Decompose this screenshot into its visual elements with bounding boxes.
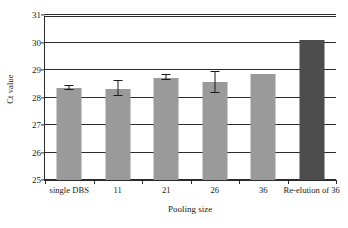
error-bar bbox=[117, 81, 118, 96]
x-tick-label: single DBS bbox=[50, 185, 89, 196]
bar-group: 26 bbox=[191, 17, 240, 180]
error-bar-cap-bottom bbox=[113, 95, 122, 96]
error-bar bbox=[214, 72, 215, 92]
x-tick-mark bbox=[239, 180, 240, 184]
x-tick-mark bbox=[142, 180, 143, 184]
x-tick-label: 26 bbox=[210, 185, 219, 196]
bar[interactable] bbox=[251, 74, 276, 180]
bar[interactable] bbox=[154, 78, 179, 180]
x-tick-mark bbox=[94, 180, 95, 184]
bar[interactable] bbox=[202, 82, 227, 180]
plot-area: 31302928272625 single DBS11212636Re-elut… bbox=[44, 16, 336, 181]
bar[interactable] bbox=[57, 88, 82, 180]
y-tick-mark-31 bbox=[41, 14, 45, 15]
error-bar-cap-top bbox=[65, 85, 74, 86]
x-tick-label: 21 bbox=[162, 185, 171, 196]
x-axis-title: Pooling size bbox=[44, 204, 336, 214]
y-tick-label-27: 27 bbox=[32, 120, 41, 130]
gridline-31: 31 bbox=[45, 14, 336, 15]
y-tick-label-29: 29 bbox=[32, 65, 41, 75]
x-tick-label: 11 bbox=[114, 185, 122, 196]
bar[interactable] bbox=[105, 89, 130, 180]
x-tick-label: Re-elution of 36 bbox=[279, 185, 345, 196]
y-axis-title: Ct value bbox=[5, 57, 15, 121]
error-bar-cap-top bbox=[210, 71, 219, 72]
error-bar-cap-bottom bbox=[210, 92, 219, 93]
y-tick-label-31: 31 bbox=[32, 10, 41, 20]
error-bar-cap-bottom bbox=[162, 79, 171, 80]
bar-chart-figure: Ct value 31302928272625 single DBS112126… bbox=[0, 0, 348, 228]
x-tick-mark bbox=[45, 180, 46, 184]
error-bar-cap-top bbox=[113, 80, 122, 81]
bar-group: 21 bbox=[142, 17, 191, 180]
x-tick-label: 36 bbox=[259, 185, 268, 196]
bar-group: 36 bbox=[239, 17, 288, 180]
error-bar-cap-bottom bbox=[65, 89, 74, 90]
y-tick-label-26: 26 bbox=[32, 147, 41, 157]
bar-group: single DBS bbox=[45, 17, 94, 180]
error-bar-cap-top bbox=[162, 74, 171, 75]
y-tick-label-25: 25 bbox=[32, 175, 41, 185]
y-tick-label-30: 30 bbox=[32, 37, 41, 47]
bar[interactable] bbox=[299, 40, 324, 180]
bar-group: Re-elution of 36 bbox=[288, 17, 337, 180]
x-tick-mark bbox=[288, 180, 289, 184]
bar-group: 11 bbox=[94, 17, 143, 180]
y-tick-label-28: 28 bbox=[32, 92, 41, 102]
x-tick-mark-end bbox=[336, 180, 337, 184]
bars-layer: single DBS11212636Re-elution of 36 bbox=[45, 17, 336, 180]
x-tick-mark bbox=[191, 180, 192, 184]
